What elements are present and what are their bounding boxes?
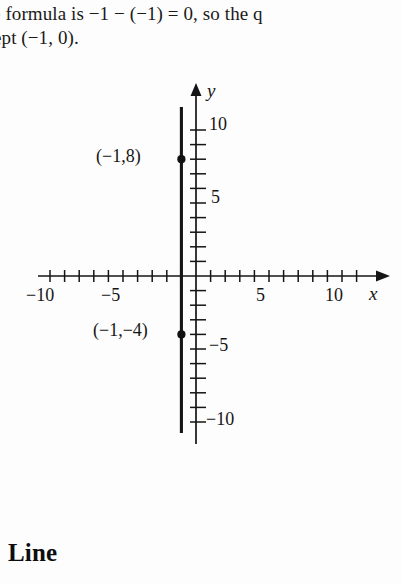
- x-tick-label-minus-5: −5: [101, 285, 120, 306]
- y-tick-label-minus-5: −5: [209, 335, 228, 356]
- point-label-minus1-8: (−1,8): [96, 146, 141, 167]
- coordinate-graph: y x 10 5 −5 −10 −10 −5 5 10 (−1,8) (−1,−…: [0, 0, 401, 470]
- y-tick-label-10: 10: [209, 114, 227, 135]
- x-axis-arrow-icon: [376, 271, 390, 282]
- y-tick-label-minus-10: −10: [206, 409, 234, 430]
- x-axis-name-label: x: [369, 283, 377, 305]
- y-tick-label-5: 5: [211, 187, 220, 208]
- x-tick-label-10: 10: [325, 285, 343, 306]
- y-axis-name-label: y: [207, 80, 215, 102]
- section-heading: Line: [8, 539, 57, 567]
- y-axis-arrow-icon: [191, 83, 202, 96]
- point-label-minus1-minus4: (−1,−4): [93, 320, 148, 341]
- data-point-marker: [177, 155, 185, 163]
- x-tick-label-minus-10: −10: [26, 285, 54, 306]
- data-point-marker: [177, 330, 185, 338]
- x-tick-label-5: 5: [256, 285, 265, 306]
- graph-canvas: [0, 0, 401, 470]
